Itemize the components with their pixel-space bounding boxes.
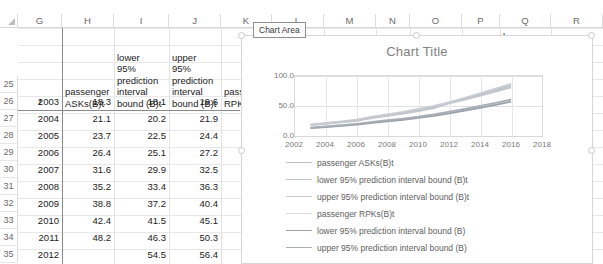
cell-h27[interactable]: 21.1 bbox=[62, 110, 114, 127]
row-header-27[interactable]: 27 bbox=[0, 110, 18, 127]
x-tick-2014: 2014 bbox=[465, 141, 495, 149]
cell-g27[interactable]: 2004 bbox=[18, 110, 62, 127]
cell-h33[interactable]: 42.4 bbox=[62, 212, 114, 229]
cell-i31[interactable]: 33.4 bbox=[114, 178, 169, 195]
column-g-divider bbox=[62, 28, 63, 264]
x-tick-2012: 2012 bbox=[434, 141, 464, 149]
legend-line-swatch bbox=[286, 230, 312, 231]
row-header-31[interactable]: 31 bbox=[0, 178, 18, 195]
cell-j32[interactable]: 40.4 bbox=[169, 195, 221, 212]
cell-j31[interactable]: 36.3 bbox=[169, 178, 221, 195]
grid-vline-j bbox=[221, 28, 222, 264]
x-tick-2018: 2018 bbox=[527, 141, 557, 149]
cell-j35[interactable]: 56.4 bbox=[169, 246, 221, 263]
legend-item[interactable]: lower 95% prediction interval bound (B)t bbox=[286, 171, 586, 188]
row-header-30[interactable]: 30 bbox=[0, 161, 18, 178]
cell-i30[interactable]: 29.9 bbox=[114, 161, 169, 178]
row-header-26[interactable]: 26 bbox=[0, 93, 18, 110]
cell-h32[interactable]: 38.8 bbox=[62, 195, 114, 212]
legend-label: lower 95% prediction interval bound (B) bbox=[317, 226, 465, 236]
x-tick-2016: 2016 bbox=[496, 141, 526, 149]
legend-line-swatch bbox=[286, 162, 312, 163]
column-header-r[interactable]: R bbox=[551, 14, 603, 27]
column-header-i[interactable]: I bbox=[114, 14, 169, 27]
column-header-q[interactable]: Q bbox=[500, 14, 551, 27]
cell-j28[interactable]: 24.4 bbox=[169, 127, 221, 144]
header-underline bbox=[18, 110, 240, 111]
cell-h34[interactable]: 48.2 bbox=[62, 229, 114, 246]
legend-line-swatch bbox=[286, 196, 312, 197]
cell-h30[interactable]: 31.6 bbox=[62, 161, 114, 178]
resize-handle-n[interactable] bbox=[413, 32, 420, 39]
cell-h26[interactable]: 18.3 bbox=[62, 93, 114, 110]
legend-label: upper 95% prediction interval bound (B) bbox=[317, 243, 467, 253]
y-tick-0-0: 0.0 bbox=[268, 132, 294, 140]
legend-item[interactable]: lower 95% prediction interval bound (B) bbox=[286, 222, 586, 239]
series-line[interactable] bbox=[310, 101, 511, 128]
row-header-25[interactable]: 25 bbox=[0, 76, 18, 93]
column-header-o[interactable]: O bbox=[410, 14, 462, 27]
excel-worksheet-screenshot: GHIJKLMNOPQR 2526272829303132333435 pass… bbox=[0, 0, 603, 264]
cell-g33[interactable]: 2010 bbox=[18, 212, 62, 229]
cell-h29[interactable]: 26.4 bbox=[62, 144, 114, 161]
x-tick-2008: 2008 bbox=[372, 141, 402, 149]
cell-i34[interactable]: 46.3 bbox=[114, 229, 169, 246]
cell-i29[interactable]: 25.1 bbox=[114, 144, 169, 161]
chart-legend[interactable]: passenger ASKs(B)tlower 95% prediction i… bbox=[286, 154, 586, 256]
legend-item[interactable]: upper 95% prediction interval bound (B) bbox=[286, 239, 586, 256]
plot-area[interactable] bbox=[294, 75, 543, 137]
cell-i28[interactable]: 22.5 bbox=[114, 127, 169, 144]
cell-g26[interactable]: 2003 bbox=[18, 93, 62, 110]
row-header-35[interactable]: 35 bbox=[0, 246, 18, 263]
resize-handle-ne[interactable] bbox=[588, 32, 595, 39]
row-header-29[interactable]: 29 bbox=[0, 144, 18, 161]
cell-g29[interactable]: 2006 bbox=[18, 144, 62, 161]
y-tick-100-0: 100.0 bbox=[268, 72, 294, 80]
cell-j33[interactable]: 45.1 bbox=[169, 212, 221, 229]
cell-g35[interactable]: 2012 bbox=[18, 246, 62, 263]
y-tick-50-0: 50.0 bbox=[268, 102, 294, 110]
column-header-g[interactable]: G bbox=[18, 14, 62, 27]
row-header-34[interactable]: 34 bbox=[0, 229, 18, 246]
x-tick-2010: 2010 bbox=[403, 141, 433, 149]
cell-j30[interactable]: 32.5 bbox=[169, 161, 221, 178]
cell-i27[interactable]: 20.2 bbox=[114, 110, 169, 127]
row-header-32[interactable]: 32 bbox=[0, 195, 18, 212]
row-header-33[interactable]: 33 bbox=[0, 212, 18, 229]
column-header-m[interactable]: M bbox=[324, 14, 376, 27]
cell-g32[interactable]: 2009 bbox=[18, 195, 62, 212]
legend-label: passenger RPKs(B)t bbox=[317, 209, 394, 219]
cell-i33[interactable]: 41.5 bbox=[114, 212, 169, 229]
legend-item[interactable]: passenger ASKs(B)t bbox=[286, 154, 586, 171]
resize-handle-nw[interactable] bbox=[238, 32, 245, 39]
legend-item[interactable]: passenger RPKs(B)t bbox=[286, 205, 586, 222]
column-header-j[interactable]: J bbox=[169, 14, 221, 27]
cell-i35[interactable]: 54.5 bbox=[114, 246, 169, 263]
column-header-n[interactable]: N bbox=[376, 14, 410, 27]
cell-j27[interactable]: 21.9 bbox=[169, 110, 221, 127]
row-header-28[interactable]: 28 bbox=[0, 127, 18, 144]
cell-j34[interactable]: 50.3 bbox=[169, 229, 221, 246]
cell-g34[interactable]: 2011 bbox=[18, 229, 62, 246]
chart-area-tooltip: Chart Area bbox=[253, 22, 306, 38]
column-header-h[interactable]: H bbox=[62, 14, 114, 27]
cell-g31[interactable]: 2008 bbox=[18, 178, 62, 195]
cell-h31[interactable]: 35.2 bbox=[62, 178, 114, 195]
cell-h28[interactable]: 23.7 bbox=[62, 127, 114, 144]
column-header-p[interactable]: P bbox=[462, 14, 500, 27]
resize-handle-w[interactable] bbox=[238, 147, 245, 154]
cell-g28[interactable]: 2005 bbox=[18, 127, 62, 144]
cell-j26[interactable]: 19.6 bbox=[169, 93, 221, 110]
cell-i32[interactable]: 37.2 bbox=[114, 195, 169, 212]
legend-line-swatch bbox=[286, 247, 312, 248]
x-tick-2004: 2004 bbox=[310, 141, 340, 149]
legend-item[interactable]: upper 95% prediction interval bound (B)t bbox=[286, 188, 586, 205]
cell-g30[interactable]: 2007 bbox=[18, 161, 62, 178]
resize-handle-e[interactable] bbox=[588, 147, 595, 154]
cell-i26[interactable]: 18.1 bbox=[114, 93, 169, 110]
cell-j29[interactable]: 27.2 bbox=[169, 144, 221, 161]
chart-object[interactable]: Chart Title 0.050.0100.0 200220042006200… bbox=[241, 35, 593, 264]
series-lines bbox=[295, 76, 542, 136]
chart-title[interactable]: Chart Title bbox=[242, 44, 592, 59]
x-tick-2002: 2002 bbox=[279, 141, 309, 149]
